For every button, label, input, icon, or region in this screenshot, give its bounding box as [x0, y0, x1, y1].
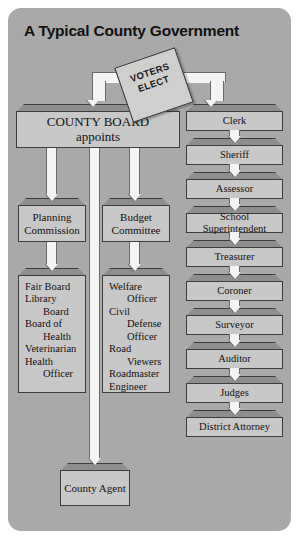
node-body: Clerk: [186, 111, 283, 131]
node-body: Sheriff: [186, 145, 283, 165]
connector-elected-3-arrow: [229, 204, 241, 211]
list-item: Health: [25, 356, 81, 368]
elected-official-label: Treasurer: [215, 251, 255, 263]
elected-official-label: Coroner: [217, 285, 251, 297]
page-title: A Typical County Government: [24, 22, 274, 40]
elected-official-label: District Attorney: [199, 421, 270, 433]
list-item: Civil: [109, 306, 165, 318]
node-body: Coroner: [186, 281, 283, 301]
node-body: Treasurer: [186, 247, 283, 267]
node-planning-commission[interactable]: Planning Commission: [18, 198, 86, 242]
connector-board-to-budget-arrow: [129, 194, 141, 201]
list-item: Board: [25, 306, 81, 318]
list-item: Roadmaster: [109, 368, 165, 380]
list-item: Officer: [109, 331, 165, 343]
node-body: Planning Commission: [18, 205, 86, 242]
node-body: School Superintendent: [186, 213, 283, 233]
node-body: Judges: [186, 383, 283, 403]
node-body: Welfare Officer Civil Defense Officer Ro…: [102, 275, 170, 393]
node-body: Surveyor: [186, 315, 283, 335]
county-government-diagram: A Typical County Government VOTERS ELECT…: [0, 0, 299, 539]
elected-official-label: Auditor: [218, 353, 251, 365]
node-body: Auditor: [186, 349, 283, 369]
node-body: County Agent: [60, 470, 130, 506]
county-agent-label: County Agent: [64, 482, 125, 494]
list-item: Engineer: [109, 381, 165, 393]
elected-official-label: Sheriff: [220, 149, 249, 161]
node-body: Budget Committee: [102, 205, 170, 242]
node-county-agent[interactable]: County Agent: [60, 463, 130, 506]
list-item: Officer: [109, 293, 165, 305]
ballot-branch-right-arrow: [205, 100, 217, 107]
list-item: Veterinarian: [25, 343, 81, 355]
connector-elected-6-arrow: [229, 306, 241, 313]
connector-elected-8-arrow: [229, 374, 241, 381]
connector-elected-9-arrow: [229, 408, 241, 415]
node-budget-committee[interactable]: Budget Committee: [102, 198, 170, 242]
node-body: District Attorney: [186, 417, 283, 437]
elected-official-label: Assessor: [216, 183, 253, 195]
connector-elected-1-arrow: [229, 136, 241, 143]
diagram-panel: A Typical County Government VOTERS ELECT…: [8, 8, 291, 531]
connector-elected-7-arrow: [229, 340, 241, 347]
node-planning-appointees[interactable]: Fair Board Library Board Board of Health…: [18, 268, 86, 393]
list-item: Board of: [25, 318, 81, 330]
connector-board-to-budget: [129, 148, 140, 195]
list-item: Health: [25, 331, 81, 343]
connector-board-to-planning-arrow: [46, 194, 58, 201]
county-board-line-2: appoints: [76, 130, 120, 145]
node-elected-clerk[interactable]: Clerk: [186, 104, 283, 131]
ballot-branch-left-arrow: [87, 100, 99, 107]
connector-board-to-planning: [46, 148, 57, 195]
connector-budget-to-list: [129, 242, 140, 265]
node-budget-appointees[interactable]: Welfare Officer Civil Defense Officer Ro…: [102, 268, 170, 393]
node-body: COUNTY BOARD appoints: [16, 111, 180, 148]
ballot-branch-right-stem: [210, 81, 224, 101]
list-item: Officer: [25, 368, 81, 380]
list-item: Fair Board: [25, 281, 81, 293]
elected-official-label: Judges: [220, 387, 249, 399]
node-body: Fair Board Library Board Board of Health…: [18, 275, 86, 393]
list-item: Welfare: [109, 281, 165, 293]
list-item: Road: [109, 343, 165, 355]
ballot-label: VOTERS ELECT: [119, 57, 185, 100]
budget-committee-label: Budget Committee: [106, 211, 166, 236]
elected-official-label: Clerk: [223, 115, 246, 127]
node-body: Assessor: [186, 179, 283, 199]
ballot-branch-left-stem: [92, 81, 106, 101]
connector-board-to-county-agent: [89, 148, 100, 459]
connector-planning-to-list-arrow: [46, 264, 58, 271]
planning-commission-label: Planning Commission: [22, 211, 82, 236]
connector-planning-to-list: [46, 242, 57, 265]
list-item: Viewers: [109, 356, 165, 368]
connector-elected-4-arrow: [229, 238, 241, 245]
connector-board-to-county-agent-arrow: [89, 458, 101, 465]
elected-official-label: Surveyor: [215, 319, 254, 331]
list-item: Library: [25, 293, 81, 305]
connector-elected-2-arrow: [229, 170, 241, 177]
list-item: Defense: [109, 318, 165, 330]
connector-elected-5-arrow: [229, 272, 241, 279]
connector-budget-to-list-arrow: [129, 264, 141, 271]
